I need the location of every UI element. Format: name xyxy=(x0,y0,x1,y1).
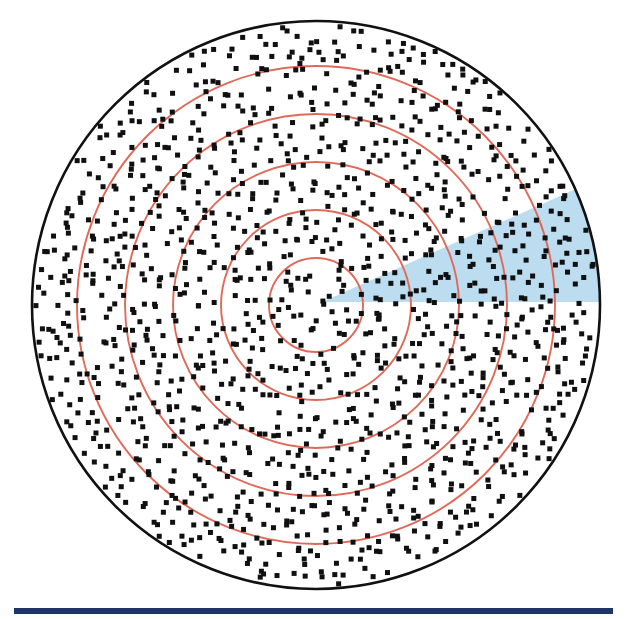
data-point xyxy=(486,177,491,182)
data-point xyxy=(300,356,305,361)
data-point xyxy=(182,164,187,169)
data-point xyxy=(354,517,359,522)
data-point xyxy=(543,327,548,332)
data-point xyxy=(61,321,66,326)
data-point xyxy=(66,278,71,283)
data-point xyxy=(549,209,554,214)
data-point xyxy=(179,377,184,382)
data-point xyxy=(179,237,184,242)
data-point xyxy=(311,179,316,184)
data-point xyxy=(481,375,486,380)
data-point xyxy=(517,493,522,498)
data-point xyxy=(377,316,382,321)
data-point xyxy=(562,381,567,386)
data-point xyxy=(365,475,370,480)
data-point xyxy=(231,255,236,260)
data-point xyxy=(306,289,311,294)
data-point xyxy=(295,34,300,39)
data-point xyxy=(191,522,196,527)
data-point xyxy=(355,392,360,397)
data-point xyxy=(442,470,447,475)
data-point xyxy=(402,379,407,384)
data-point xyxy=(155,380,160,385)
data-point xyxy=(356,186,361,191)
data-point xyxy=(351,92,356,97)
data-point xyxy=(452,86,457,91)
data-point xyxy=(468,264,473,269)
data-point xyxy=(389,462,394,467)
data-point xyxy=(583,354,588,359)
data-point xyxy=(349,266,354,271)
data-point xyxy=(491,264,496,269)
data-point xyxy=(269,106,274,111)
data-point xyxy=(504,233,509,238)
data-point xyxy=(471,194,476,199)
data-point xyxy=(429,403,434,408)
data-point xyxy=(513,158,518,163)
data-point xyxy=(242,229,247,234)
data-point xyxy=(517,270,522,275)
data-point xyxy=(557,240,562,245)
data-point xyxy=(174,404,179,409)
data-point xyxy=(295,533,300,538)
data-point xyxy=(471,438,476,443)
data-point xyxy=(121,293,126,298)
data-point xyxy=(565,270,570,275)
data-point xyxy=(359,311,364,316)
data-point xyxy=(498,439,503,444)
data-point xyxy=(403,165,408,170)
data-point xyxy=(526,127,531,132)
data-point xyxy=(68,269,73,274)
data-point xyxy=(433,49,438,54)
data-point xyxy=(413,176,418,181)
data-point xyxy=(131,310,136,315)
data-point xyxy=(364,70,369,75)
data-point xyxy=(221,326,226,331)
data-point xyxy=(461,408,466,413)
data-point xyxy=(374,399,379,404)
data-point xyxy=(377,518,382,523)
data-point xyxy=(166,145,171,150)
data-point xyxy=(66,231,71,236)
data-point xyxy=(157,214,162,219)
data-point xyxy=(476,393,481,398)
data-point xyxy=(92,460,97,465)
data-point xyxy=(561,196,566,201)
data-point xyxy=(481,371,486,376)
data-point xyxy=(52,248,57,253)
data-point xyxy=(132,342,137,347)
data-point xyxy=(390,237,395,242)
data-point xyxy=(399,504,404,509)
data-point xyxy=(379,254,384,259)
data-point xyxy=(416,191,421,196)
data-point xyxy=(292,571,297,576)
data-point xyxy=(429,252,434,257)
data-point xyxy=(172,434,177,439)
data-point xyxy=(358,557,363,562)
data-point xyxy=(118,121,123,126)
data-point xyxy=(310,124,315,129)
data-point xyxy=(430,424,435,429)
data-point xyxy=(412,353,417,358)
data-point xyxy=(177,338,182,343)
data-point xyxy=(291,507,296,512)
data-point xyxy=(263,562,268,567)
data-point xyxy=(166,392,171,397)
data-point xyxy=(508,380,513,385)
data-point xyxy=(251,328,256,333)
data-point xyxy=(298,313,303,318)
data-point xyxy=(418,375,423,380)
data-point xyxy=(112,301,117,306)
data-point xyxy=(197,535,202,540)
data-point xyxy=(337,525,342,530)
data-point xyxy=(99,197,104,202)
data-point xyxy=(406,549,411,554)
data-point xyxy=(295,238,300,243)
data-point xyxy=(235,192,240,197)
data-point xyxy=(143,443,148,448)
data-point xyxy=(134,375,139,380)
data-point xyxy=(426,269,431,274)
data-point xyxy=(289,288,294,293)
data-point xyxy=(413,485,418,490)
data-point xyxy=(200,386,205,391)
